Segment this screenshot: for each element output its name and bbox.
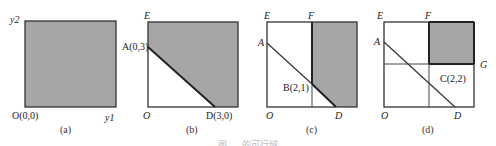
panel-b-label-a: A(0,3) [122, 41, 148, 53]
panel-d-label-a: A [373, 36, 381, 47]
panel-a-caption: (a) [60, 124, 71, 136]
panel-c-line-ab [267, 43, 312, 84]
panel-a-origin-label: O(0,0) [12, 110, 38, 122]
panel-d-label-d: D [453, 110, 462, 121]
panel-d-shaded-region [429, 22, 474, 64]
panel-b-label-o: O [143, 110, 150, 121]
figure-caption: 图 … 的可行域 [0, 138, 496, 146]
panel-a-shaded-region [25, 21, 116, 107]
panel-c-label-b: B(2,1) [283, 82, 309, 94]
panel-c-caption: (c) [306, 124, 317, 136]
panel-d-label-e: E [376, 10, 383, 21]
feasible-region-figure: y2 O(0,0) y1 (a) E A(0,3) O D(3,0) (b) E… [0, 0, 496, 146]
panel-d-caption: (d) [422, 124, 434, 136]
panel-c-label-a: A [257, 37, 265, 48]
panel-c-label-e: E [263, 10, 270, 21]
panel-d-label-f: F [424, 10, 432, 21]
panel-c-label-d: D [334, 110, 343, 121]
panel-a-y-axis-label: y2 [9, 14, 19, 25]
panel-c-label-o: O [266, 110, 273, 121]
panel-d-label-o: O [381, 110, 388, 121]
panel-c-shaded-region [312, 22, 357, 107]
panel-b-caption: (b) [186, 124, 198, 136]
panel-c-label-f: F [307, 10, 315, 21]
panel-c: E F A B(2,1) O D (c) [257, 10, 357, 136]
panel-d-label-c: C(2,2) [440, 73, 466, 85]
panel-d-label-g: G [480, 59, 487, 70]
panel-a-x-axis-label: y1 [104, 112, 114, 123]
panel-b-label-e: E [143, 10, 150, 21]
panel-b-label-d: D(3,0) [206, 110, 232, 122]
panel-d: E F A G C(2,2) O D (d) [373, 10, 487, 136]
panel-b: E A(0,3) O D(3,0) (b) [122, 10, 238, 136]
panel-a: y2 O(0,0) y1 (a) [9, 14, 116, 136]
